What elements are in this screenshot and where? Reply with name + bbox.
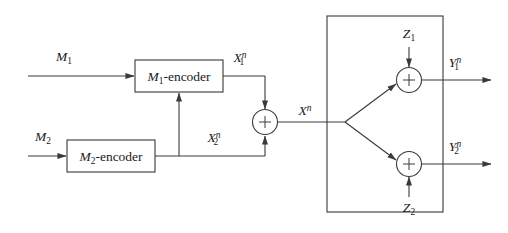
- label-x2n: Xn2: [207, 130, 221, 147]
- label-y1n: Yn1: [449, 55, 462, 72]
- encoder-1-label: M1-encoder: [146, 69, 211, 86]
- label-z2: Z2: [403, 200, 416, 217]
- label-z1: Z1: [403, 26, 416, 43]
- encoder-2-label: M2-encoder: [78, 149, 143, 166]
- channel-block-rect: [327, 16, 443, 212]
- label-y2n: Yn2: [449, 139, 462, 156]
- label-x1n: Xn1: [233, 50, 247, 67]
- label-m2: M2: [34, 129, 51, 146]
- wire-xn-branch-upper: [345, 84, 396, 122]
- label-m1: M1: [55, 49, 72, 66]
- label-xn: Xn: [298, 103, 312, 118]
- block-diagram-figure: M1 M2 M1-encoder M2-encoder Xn1 Xn2 Xn Z…: [0, 0, 508, 233]
- wire-xn-branch-lower: [345, 122, 396, 160]
- diagram-canvas: M1 M2 M1-encoder M2-encoder Xn1 Xn2 Xn Z…: [0, 0, 508, 233]
